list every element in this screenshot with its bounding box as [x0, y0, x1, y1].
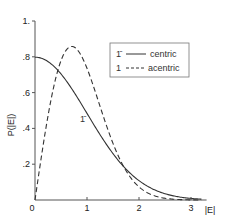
y-tick-label: 1.	[22, 16, 30, 26]
x-tick-label: 1	[84, 203, 89, 213]
annotation-centric: 1̄	[80, 114, 87, 124]
y-tick-label: .8	[22, 52, 30, 62]
series-centric-line	[35, 57, 201, 199]
y-tick-label: .6	[22, 88, 30, 98]
y-tick-label: .4	[22, 123, 30, 133]
x-tick-label: 0	[29, 203, 34, 213]
x-axis-label: |E|	[205, 205, 216, 215]
y-tick-label: .2	[22, 159, 30, 169]
legend-label-acentric: acentric	[148, 63, 180, 73]
y-axis-label: P(|E|)	[6, 114, 16, 137]
x-tick-label: 2	[136, 203, 141, 213]
legend-label-centric: centric	[150, 49, 177, 59]
wilson-distribution-chart: 0123.2.4.6.81. P(|E|) |E| 1̄ 1 1̄ centri…	[0, 0, 229, 215]
x-tick-label: 3	[188, 203, 193, 213]
legend-symbol-acentric: 1	[116, 63, 121, 73]
legend: 1̄ centric 1 acentric	[110, 43, 189, 77]
